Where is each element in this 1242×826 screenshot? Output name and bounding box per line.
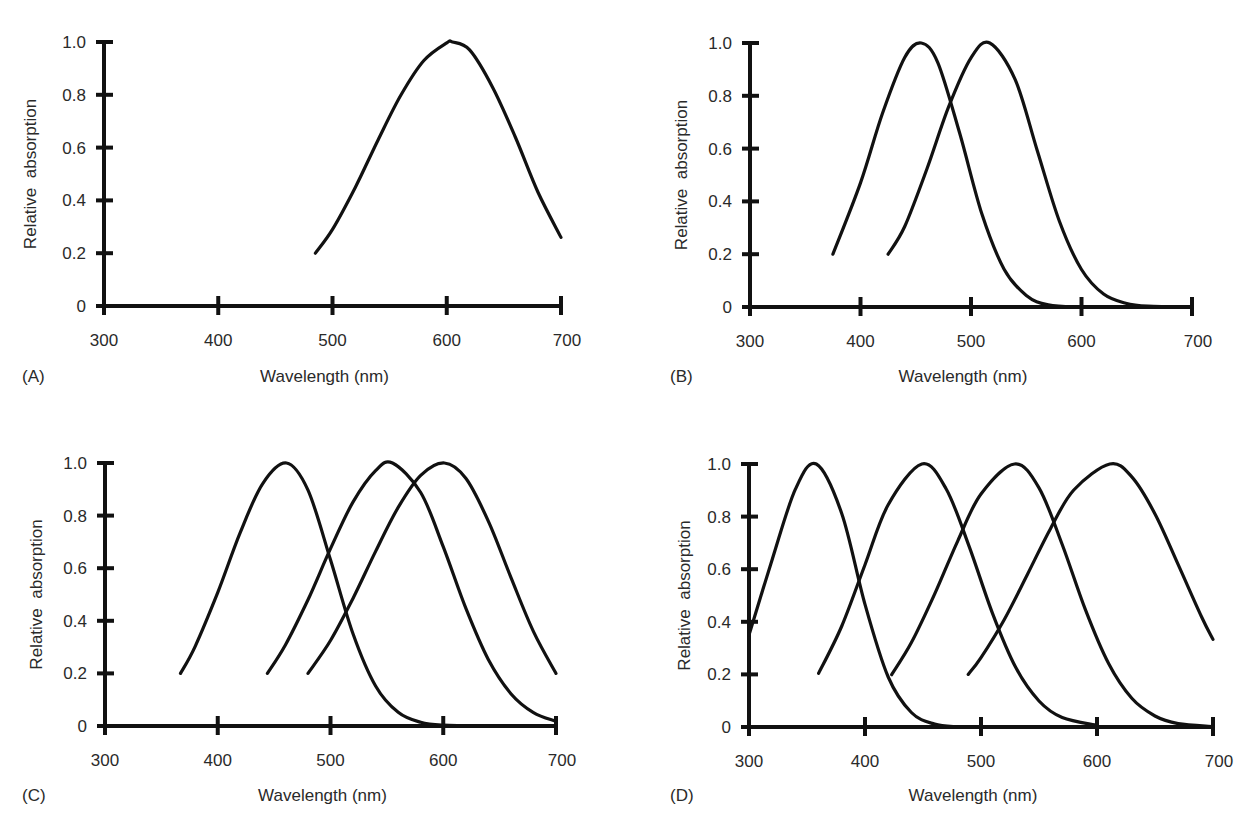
panel-label: (B) [670,367,693,386]
absorption-curve-2 [888,42,1192,307]
y-tick-label: 0.8 [707,508,731,527]
absorption-curve-1 [315,41,561,253]
x-tick-label: 600 [1067,332,1095,351]
curves [181,462,557,726]
x-axis: 300400500600700 [735,717,1233,771]
y-tick-label: 0.2 [708,245,732,264]
x-tick-label: 400 [851,752,879,771]
x-tick-label: 400 [204,751,232,770]
y-axis: 00.20.40.60.81.0 [707,455,758,737]
y-tick-label: 0.4 [707,613,731,632]
x-tick-label: 300 [91,751,119,770]
y-tick-label: 0.2 [62,244,86,263]
y-tick-label: 0.6 [63,559,87,578]
y-axis: 00.20.40.60.81.0 [708,34,759,317]
y-tick-label: 0 [723,298,732,317]
y-tick-label: 0.6 [707,560,731,579]
x-tick-label: 600 [1083,752,1111,771]
y-axis-title: Relative absorption [675,520,694,670]
y-axis-title: Relative absorption [21,99,40,249]
y-tick-label: 0.4 [63,612,87,631]
x-tick-label: 700 [1184,332,1212,351]
y-tick-label: 0 [77,297,86,316]
y-tick-label: 0.6 [62,139,86,158]
panel-label: (C) [22,786,46,805]
x-tick-label: 600 [433,331,461,350]
x-axis-title: Wavelength (nm) [909,786,1038,805]
x-tick-label: 700 [1205,752,1233,771]
panel-label: (A) [22,367,45,386]
y-tick-label: 0.8 [63,507,87,526]
curves [315,41,561,253]
y-tick-label: 0.6 [708,140,732,159]
x-tick-label: 300 [90,331,118,350]
y-tick-label: 0.2 [707,665,731,684]
x-tick-label: 500 [967,752,995,771]
x-axis-title: Wavelength (nm) [258,786,387,805]
x-tick-label: 700 [553,331,581,350]
panel-a: 00.20.40.60.81.0 300400500600700 Relativ… [21,33,581,386]
absorption-curve-1 [181,463,489,726]
y-tick-label: 1.0 [63,454,87,473]
figure: 00.20.40.60.81.0 300400500600700 Relativ… [0,0,1242,826]
panel-b: 00.20.40.60.81.0 300400500600700 Relativ… [670,34,1212,386]
x-tick-label: 400 [204,331,232,350]
absorption-curve-1 [833,43,1137,307]
x-axis: 300400500600700 [90,296,581,350]
y-tick-label: 1.0 [708,34,732,53]
panel-label: (D) [670,786,694,805]
y-tick-label: 0.8 [62,86,86,105]
x-axis-title: Wavelength (nm) [899,367,1028,386]
y-axis-title: Relative absorption [27,519,46,669]
x-axis: 300400500600700 [91,716,576,770]
curves [833,42,1192,307]
y-tick-label: 0.8 [708,87,732,106]
x-tick-label: 500 [318,331,346,350]
y-axis: 00.20.40.60.81.0 [62,33,113,316]
absorption-curve-2 [819,464,1097,726]
x-axis-title: Wavelength (nm) [260,367,389,386]
y-tick-label: 0 [78,717,87,736]
panel-c: 00.20.40.60.81.0 300400500600700 Relativ… [22,454,576,805]
x-tick-label: 400 [846,332,874,351]
x-tick-label: 300 [736,332,764,351]
x-tick-label: 700 [548,751,576,770]
y-tick-label: 0.2 [63,664,87,683]
y-tick-label: 0.4 [62,191,86,210]
y-tick-label: 1.0 [707,455,731,474]
x-tick-label: 300 [735,752,763,771]
y-tick-label: 1.0 [62,33,86,52]
y-tick-label: 0 [722,718,731,737]
curves [749,463,1213,727]
y-axis: 00.20.40.60.81.0 [63,454,114,736]
x-tick-label: 500 [316,751,344,770]
y-tick-label: 0.4 [708,192,732,211]
absorption-curve-3 [892,464,1213,727]
panel-d: 00.20.40.60.81.0 300400500600700 Relativ… [670,455,1233,805]
y-axis-title: Relative absorption [672,100,691,250]
x-tick-label: 500 [957,332,985,351]
absorption-curve-3 [308,463,556,673]
x-tick-label: 600 [429,751,457,770]
